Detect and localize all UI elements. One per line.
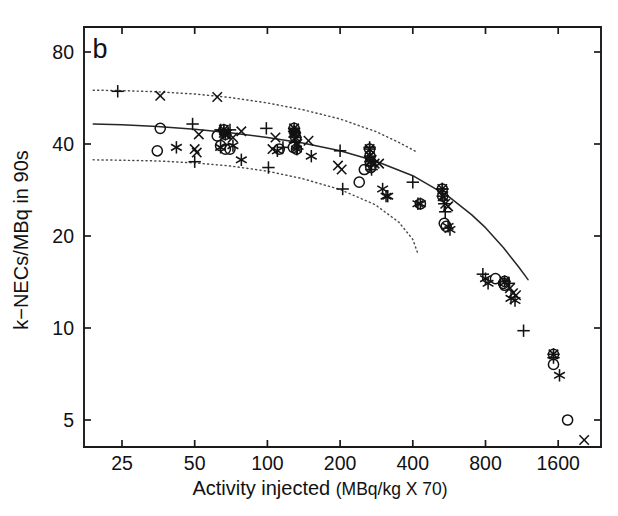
data-point-overlapping-cluster	[498, 275, 510, 287]
x-tick-label-800: 800	[469, 452, 502, 474]
x-axis-title-units: (MBq/kg X 70)	[336, 479, 448, 499]
y-tick-label-10: 10	[52, 317, 74, 339]
x-tick-label-400: 400	[397, 452, 430, 474]
x-tick-label-50: 50	[184, 452, 206, 474]
data-point-overlapping-cluster	[437, 190, 449, 202]
data-point-overlapping-cluster	[364, 156, 376, 168]
data-point-overlapping-cluster	[290, 131, 302, 143]
figure-panel-b: 25501002004008001600510204080bActivity i…	[0, 0, 618, 516]
y-tick-label-5: 5	[63, 409, 74, 431]
y-tick-label-20: 20	[52, 225, 74, 247]
x-tick-label-200: 200	[324, 452, 357, 474]
x-axis-title-main: Activity injected	[192, 477, 335, 499]
x-tick-label-1600: 1600	[537, 452, 581, 474]
data-point-overlapping-cluster	[547, 348, 559, 360]
x-tick-label-25: 25	[111, 452, 133, 474]
y-tick-label-40: 40	[52, 133, 74, 155]
y-axis-title: k−NECs/MBq in 90s	[10, 150, 32, 330]
y-tick-label-80: 80	[52, 41, 74, 63]
x-axis-title: Activity injected (MBq/kg X 70)	[192, 477, 447, 499]
panel-label: b	[92, 34, 107, 64]
data-point-overlapping-cluster	[219, 128, 231, 140]
plot-background	[0, 0, 618, 516]
x-tick-label-100: 100	[251, 452, 284, 474]
scatter-plot: 25501002004008001600510204080bActivity i…	[0, 0, 618, 516]
